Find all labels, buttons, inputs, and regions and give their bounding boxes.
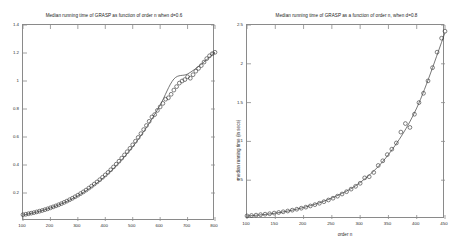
left-x-tick-label: 600 bbox=[155, 223, 162, 228]
right-x-tick-label: 250 bbox=[327, 221, 334, 226]
right-plot-svg bbox=[247, 25, 445, 219]
left-x-tick-label: 500 bbox=[128, 223, 135, 228]
left-plot-area bbox=[22, 24, 214, 220]
right-y-tick-label: 2.5 bbox=[228, 22, 243, 27]
left-x-tick-label: 400 bbox=[101, 223, 108, 228]
left-y-tick-label: 1.2 bbox=[4, 50, 19, 55]
right-x-tick-label: 450 bbox=[440, 221, 447, 226]
left-y-tick-label: 0.6 bbox=[4, 134, 19, 139]
right-plot-area bbox=[246, 24, 444, 218]
right-y-axis-label: median running time (in secs) bbox=[236, 120, 241, 180]
right-x-tick-label: 300 bbox=[355, 221, 362, 226]
left-y-tick-label: 1 bbox=[4, 78, 19, 83]
left-x-tick-label: 800 bbox=[210, 223, 217, 228]
left-y-tick-label: 1.4 bbox=[4, 22, 19, 27]
right-chart-title: Median running time of GRASP as a functi… bbox=[228, 13, 465, 19]
right-y-tick-label: 1.5 bbox=[228, 99, 243, 104]
left-x-tick-label: 200 bbox=[46, 223, 53, 228]
left-y-tick-label: 0.8 bbox=[4, 106, 19, 111]
right-x-tick-label: 350 bbox=[384, 221, 391, 226]
figure-pair-canvas: Median running time of GRASP as function… bbox=[0, 0, 465, 250]
left-plot-svg bbox=[23, 25, 215, 221]
left-x-tick-label: 700 bbox=[183, 223, 190, 228]
left-x-tick-label: 300 bbox=[73, 223, 80, 228]
right-y-tick-label: 2 bbox=[228, 60, 243, 65]
right-x-tick-label: 150 bbox=[271, 221, 278, 226]
left-y-tick-label: 0.4 bbox=[4, 162, 19, 167]
right-x-tick-label: 200 bbox=[299, 221, 306, 226]
left-chart-title: Median running time of GRASP as function… bbox=[0, 13, 228, 19]
figure-left: Median running time of GRASP as function… bbox=[0, 0, 228, 250]
right-x-tick-label: 400 bbox=[412, 221, 419, 226]
figure-right: Median running time of GRASP as a functi… bbox=[228, 0, 465, 250]
right-x-axis-label: order n bbox=[338, 232, 353, 237]
right-x-tick-label: 100 bbox=[242, 221, 249, 226]
left-y-tick-label: 0.2 bbox=[4, 190, 19, 195]
left-x-tick-label: 100 bbox=[18, 223, 25, 228]
